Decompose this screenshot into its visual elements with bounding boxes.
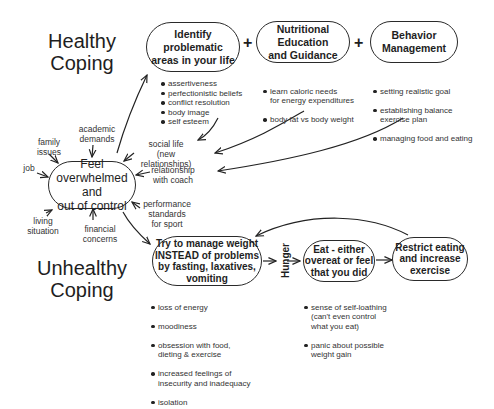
node-label: Eat - either	[305, 244, 373, 256]
node-identify-problematic-areas: Identify problematic areas in your life	[146, 22, 240, 72]
stressor-academic-demands: academic demands	[78, 124, 116, 144]
stressor-job: job	[22, 163, 36, 173]
node-label: areas in your life	[147, 54, 239, 67]
node-label: Identify problematic	[147, 28, 239, 54]
unhealthy-title-line1: Unhealthy	[32, 257, 132, 279]
node-nutritional-education: Nutritional Education and Guidance	[256, 21, 350, 63]
bullet-item: isolation	[150, 398, 270, 408]
arrow-coach	[136, 172, 150, 175]
stressor-text: financial	[80, 224, 120, 234]
bullet-item: conflict resolution	[160, 98, 250, 108]
healthy-title-line1: Healthy	[42, 30, 122, 52]
node-label: and increase	[395, 253, 464, 265]
node-label: Feel overwhelmed	[49, 157, 135, 185]
stressor-text: family	[34, 137, 64, 147]
bullet-item: loss of energy	[150, 303, 270, 313]
stressor-text: concerns	[80, 234, 120, 244]
bullet-item: body image	[160, 108, 250, 118]
healthy-coping-title: Healthy Coping	[42, 30, 122, 74]
node-label: out of control	[49, 199, 135, 213]
node-behavior-management: Behavior Management	[370, 21, 458, 63]
stressor-text: demands	[78, 134, 116, 144]
stressor-family-issues: family issues	[34, 137, 64, 157]
stressor-text: for sport	[142, 219, 192, 229]
arrow-restrict-to-try	[256, 218, 408, 236]
node-label: Nutritional Education	[257, 23, 349, 49]
stressor-performance-standards: performance standards for sport	[142, 199, 192, 229]
healthy-title-line2: Coping	[42, 52, 122, 74]
hunger-label: Hunger	[280, 241, 291, 281]
stressor-text: issues	[34, 147, 64, 157]
bullet-item: obsession with food, dieting & exercise	[150, 341, 270, 360]
stressor-text: academic	[78, 124, 116, 134]
stressor-text: job	[22, 163, 36, 173]
node-label: Management	[382, 42, 446, 55]
stressor-text: living	[24, 216, 62, 226]
node-label: by fasting, laxatives,	[155, 261, 259, 273]
nutrition-bullets: learn caloric needs for energy expenditu…	[262, 77, 372, 134]
stressor-text: standards	[142, 209, 192, 219]
stressor-living-situation: living situation	[24, 216, 62, 236]
behavior-bullets: setting realistic goal establishing bala…	[372, 77, 482, 153]
unhealthy-title-line2: Coping	[32, 279, 132, 301]
stressor-text: situation	[24, 226, 62, 236]
bullet-item: moodiness	[150, 322, 270, 332]
node-label: exercise	[395, 265, 464, 277]
bullet-item: establishing balance exercise plan	[372, 106, 482, 125]
node-eat-overeat: Eat - either overeat or feel that you di…	[303, 240, 375, 282]
node-label: vomiting	[155, 273, 259, 285]
plus-sign: +	[354, 34, 363, 52]
node-label: Try to manage weight	[155, 238, 259, 250]
node-label: overeat or feel	[305, 255, 373, 267]
node-try-to-manage-weight: Try to manage weight INSTEAD of problems…	[152, 236, 262, 286]
bullet-item: increased feelings of insecurity and ina…	[150, 369, 270, 388]
bullet-item: managing food and eating	[372, 134, 482, 144]
node-label: and	[49, 185, 135, 199]
unhealthy-coping-title: Unhealthy Coping	[32, 257, 132, 301]
arrow-job	[37, 173, 48, 177]
try-manage-bullets: loss of energy moodiness obsession with …	[150, 293, 270, 409]
stressor-financial-concerns: financial concerns	[80, 224, 120, 244]
arrow-academic	[92, 145, 93, 157]
stressor-text: with coach	[150, 175, 196, 185]
node-label: and Guidance	[257, 49, 349, 62]
stressor-text: (new relationships)	[134, 149, 198, 169]
stressor-text: performance	[142, 199, 192, 209]
stressor-social-life: social life (new relationships)	[134, 139, 198, 169]
node-label: Restrict eating	[395, 242, 464, 254]
bullet-item: sense of self-loathing (can't even contr…	[303, 303, 403, 332]
plus-sign: +	[243, 34, 252, 52]
bullet-item: setting realistic goal	[372, 87, 482, 97]
node-feel-overwhelmed: Feel overwhelmed and out of control	[48, 161, 136, 209]
bullet-item: learn caloric needs for energy expenditu…	[262, 87, 372, 106]
bullet-item: panic about possible weight gain	[303, 341, 403, 360]
bullet-item: perfectionistic beliefs	[160, 89, 250, 99]
node-label: Behavior	[382, 29, 446, 42]
identify-bullets: assertiveness perfectionistic beliefs co…	[160, 79, 250, 127]
bullet-item: body fat vs body weight	[262, 115, 372, 125]
node-label: INSTEAD of problems	[155, 250, 259, 262]
node-restrict-eating: Restrict eating and increase exercise	[392, 237, 468, 281]
eat-bullets: sense of self-loathing (can't even contr…	[303, 293, 403, 369]
stressor-text: social life	[134, 139, 198, 149]
bullet-item: self esteem	[160, 117, 250, 127]
node-label: that you did	[305, 267, 373, 279]
bullet-item: assertiveness	[160, 79, 250, 89]
